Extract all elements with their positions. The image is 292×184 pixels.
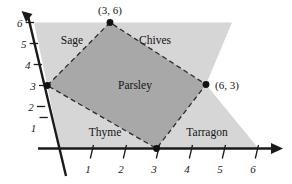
- region-label-tarragon: Tarragon: [186, 126, 228, 139]
- y-tick-label-6: 6: [17, 17, 23, 29]
- y-tick-label-4: 4: [25, 59, 31, 71]
- oblique-coordinate-figure: 6 5 4 3 2 1 1 2 3 4 5 6 (3, 6) (6, 3) Sa…: [0, 0, 292, 184]
- y-tick-label-2: 2: [28, 101, 34, 113]
- point-label-6-3: (6, 3): [215, 79, 239, 92]
- y-axis-arrowhead: [22, 11, 33, 22]
- region-label-chives: Chives: [139, 34, 171, 46]
- region-label-sage: Sage: [61, 34, 83, 47]
- x-tick-label-3: 3: [150, 163, 157, 175]
- y-tick-label-5: 5: [21, 38, 27, 50]
- vertex-dot-6-3: [203, 81, 210, 88]
- region-label-thyme: Thyme: [89, 126, 122, 139]
- x-tick-label-1: 1: [85, 163, 91, 175]
- point-label-3-6: (3, 6): [98, 4, 122, 17]
- y-tick-label-1: 1: [31, 122, 37, 134]
- x-axis-arrowhead: [271, 143, 283, 154]
- vertex-dot-0-3: [44, 82, 51, 89]
- x-tick-label-2: 2: [118, 163, 124, 175]
- x-tick-label-6: 6: [250, 163, 256, 175]
- figure-canvas: 6 5 4 3 2 1 1 2 3 4 5 6 (3, 6) (6, 3) Sa…: [0, 0, 292, 184]
- x-tick-label-4: 4: [184, 163, 190, 175]
- y-tick-label-3: 3: [29, 80, 36, 92]
- vertex-dot-3-0: [153, 145, 160, 152]
- vertex-dot-3-6: [107, 19, 114, 26]
- x-tick-label-5: 5: [217, 163, 223, 175]
- region-label-parsley: Parsley: [118, 79, 152, 92]
